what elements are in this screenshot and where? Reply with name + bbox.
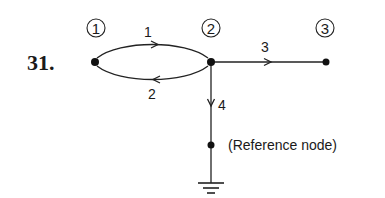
ground-icon [198, 183, 224, 193]
node-1-circled-label: 1 [87, 19, 105, 37]
problem-number: 31. [27, 50, 55, 75]
svg-text:3: 3 [321, 20, 329, 37]
node-2-circled-label: 2 [202, 19, 220, 37]
branch-2-edge [97, 66, 208, 80]
node-1-dot [91, 58, 99, 66]
svg-text:1: 1 [92, 20, 100, 37]
branch-2-label: 2 [148, 86, 156, 102]
svg-text:2: 2 [207, 20, 215, 37]
node-3-circled-label: 3 [316, 19, 334, 37]
branch-4-label: 4 [218, 97, 226, 113]
reference-node-label: (Reference node) [228, 137, 337, 153]
reference-node-dot [208, 142, 215, 149]
branch-3-label: 3 [261, 39, 269, 55]
graph-diagram: 31. 1 2 3 1 2 3 4 (Reference node) [0, 0, 385, 198]
branch-1-label: 1 [144, 24, 152, 40]
node-2-dot [207, 58, 215, 66]
node-3-dot [323, 59, 330, 66]
